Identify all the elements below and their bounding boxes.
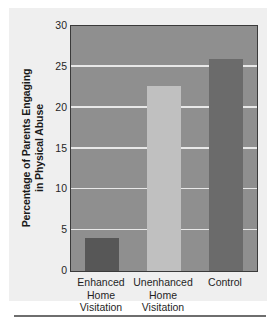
bar-0 <box>85 238 119 271</box>
y-tick-label-15: 15 <box>40 142 67 154</box>
bottom-rule <box>14 315 266 317</box>
x-tick-label-2: Control <box>194 276 256 289</box>
x-tick-label-0: EnhancedHomeVisitation <box>70 276 132 314</box>
plot-area <box>70 25 258 272</box>
bar-1 <box>147 86 181 271</box>
y-tick-label-5: 5 <box>40 223 67 235</box>
y-tick-label-20: 20 <box>40 101 67 113</box>
y-tick-label-10: 10 <box>40 182 67 194</box>
y-axis-tick-labels: 051015202530 <box>40 20 67 275</box>
bar-chart-figure: Percentage of Parents Engaging in Physic… <box>0 0 276 327</box>
y-tick-label-25: 25 <box>40 60 67 72</box>
x-tick-label-1: UnenhancedHomeVisitation <box>132 276 194 314</box>
y-axis-title-line-1: Percentage of Parents Engaging <box>20 69 32 228</box>
y-tick-label-0: 0 <box>40 264 67 276</box>
bar-2 <box>209 59 243 271</box>
y-tick-label-30: 30 <box>40 19 67 31</box>
